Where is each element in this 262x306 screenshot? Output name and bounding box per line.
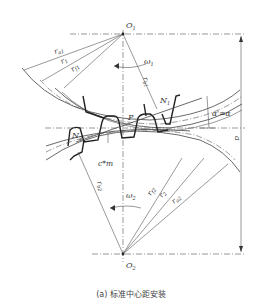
radius-ra1-line: [24, 34, 123, 70]
label-rb2: rb2: [95, 180, 106, 192]
arrow-left-icon: [114, 63, 119, 69]
radius-rf1-line: [64, 34, 123, 88]
label-o2: O2: [126, 261, 136, 271]
arrow-left-icon: [110, 205, 115, 211]
radius-r2-line: [123, 158, 204, 254]
gear-meshing-diagram: O1 O2 P N1 N2 ra1 r1 rf1 rb1 rb2 rf2 r2 …: [0, 0, 262, 306]
label-p: P: [127, 113, 134, 122]
label-ra1: ra1: [53, 45, 65, 56]
label-rb1: rb1: [141, 76, 152, 88]
label-ra2: ra2: [170, 193, 183, 206]
label-clearance: c*m: [98, 159, 113, 168]
arrow-up-icon: [239, 36, 243, 42]
pressure-angle-dimension: [207, 96, 209, 128]
label-omega1: ω1: [144, 57, 154, 67]
radius-rb1-line: [123, 34, 157, 109]
label-center-distance: a: [233, 136, 242, 141]
label-rf2: rf2: [146, 186, 158, 198]
arrow-down-icon: [239, 246, 243, 252]
label-omega2: ω2: [126, 191, 136, 201]
label-n2: N2: [71, 131, 82, 141]
gear2-dedendum-circle: [46, 129, 190, 146]
gear1-dedendum-circle: [55, 88, 242, 128]
o2-center-point: [122, 253, 125, 256]
label-r2: r2: [157, 189, 168, 199]
label-r1: r1: [59, 56, 69, 67]
o1-center-point: [122, 33, 125, 36]
radius-ra2-line: [123, 164, 228, 254]
label-n1: N1: [159, 96, 170, 106]
label-o1: O1: [126, 21, 136, 31]
label-pressure-angle: α'=α: [212, 109, 230, 118]
figure-caption: (a) 标准中心距安装: [0, 288, 262, 299]
radius-r1-line: [42, 34, 123, 81]
line-of-action: [76, 98, 202, 142]
